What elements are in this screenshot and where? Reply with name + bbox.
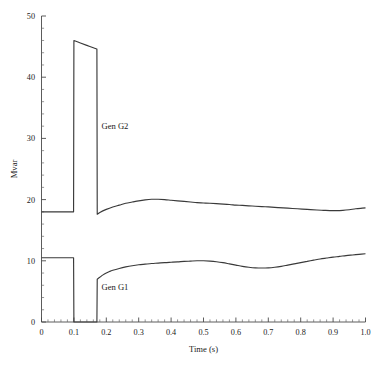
x-tick-label: 0.1 xyxy=(69,328,79,337)
axis-tick-labels: 0102030405000.10.20.30.40.50.60.70.80.91… xyxy=(27,12,371,337)
y-tick-label: 30 xyxy=(27,134,35,143)
x-tick-label: 0.8 xyxy=(296,328,306,337)
x-tick-label: 0.4 xyxy=(166,328,176,337)
x-tick-label: 0.9 xyxy=(328,328,338,337)
x-tick-label: 0.3 xyxy=(134,328,144,337)
series-label-gen-g1: Gen G1 xyxy=(101,282,128,292)
x-tick-label: 0.6 xyxy=(231,328,241,337)
x-tick-label: 0.5 xyxy=(198,328,208,337)
y-tick-label: 40 xyxy=(27,73,35,82)
series-line-gen-g2 xyxy=(42,40,366,214)
y-tick-label: 0 xyxy=(31,318,35,327)
axes xyxy=(42,16,366,322)
x-tick-label: 0.2 xyxy=(101,328,111,337)
y-tick-label: 10 xyxy=(27,257,35,266)
series-label-gen-g2: Gen G2 xyxy=(101,121,128,131)
data-series xyxy=(42,40,366,322)
y-axis-title: Mvar xyxy=(9,160,19,179)
x-tick-label: 0 xyxy=(39,328,43,337)
axis-ticks xyxy=(42,16,366,322)
x-axis-title: Time (s) xyxy=(189,344,218,354)
y-tick-label: 50 xyxy=(27,12,35,21)
reactive-power-line-chart: 0102030405000.10.20.30.40.50.60.70.80.91… xyxy=(0,0,376,367)
chart-container: 0102030405000.10.20.30.40.50.60.70.80.91… xyxy=(0,0,376,367)
x-tick-label: 0.7 xyxy=(263,328,273,337)
x-tick-label: 1.0 xyxy=(360,328,370,337)
series-line-gen-g1 xyxy=(42,254,366,322)
y-tick-label: 20 xyxy=(27,196,35,205)
